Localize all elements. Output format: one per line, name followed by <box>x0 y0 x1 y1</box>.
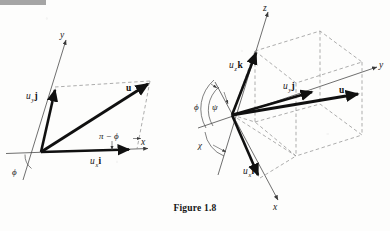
right-box-bottom-face <box>255 104 362 156</box>
right-z-component-vector <box>232 53 256 115</box>
left-y-component-unit-vector: j <box>34 91 38 101</box>
figure-canvas: x y u u y j u x i π − ϕ ϕ <box>0 0 390 231</box>
right-resultant-label: u <box>339 85 345 95</box>
left-resultant-label: u <box>126 83 132 93</box>
right-psi-label: ψ <box>212 102 218 112</box>
right-z-component-unit-vector: k <box>238 60 244 70</box>
left-x-component-unit-vector: i <box>99 156 102 166</box>
left-x-component-label: u x i <box>90 156 102 168</box>
left-x-component-vector <box>41 150 129 153</box>
left-y-component-label: u y j <box>26 91 38 103</box>
right-chi-label: χ <box>197 140 203 150</box>
left-y-component-base: u <box>26 91 31 101</box>
right-x-axis <box>215 82 278 200</box>
right-z-component-label: u z k <box>229 60 244 72</box>
left-phi-label: ϕ <box>12 167 17 177</box>
left-y-axis <box>23 40 66 180</box>
right-phi-label: ϕ <box>194 102 199 112</box>
figure-caption: Figure 1.8 <box>0 203 390 213</box>
left-x-component-base: u <box>90 156 95 166</box>
right-box-top-face <box>255 31 362 83</box>
right-z-component-base: u <box>229 60 234 70</box>
left-dashed-top <box>55 81 150 87</box>
right-y-component-label: u y j <box>283 81 295 93</box>
left-resultant-vector <box>41 84 148 152</box>
figure-page: x y u u y j u x i π − ϕ ϕ <box>0 0 390 231</box>
right-y-component-unit-vector: j <box>291 81 295 91</box>
right-z-axis <box>218 12 268 175</box>
right-x-component-label: u x i <box>243 166 255 178</box>
left-pi-minus-phi-label: π − ϕ <box>99 131 119 141</box>
right-y-axis <box>198 67 377 128</box>
right-panel: z y x u z k u y j u x i u <box>194 3 384 212</box>
right-box-origin-edge-d <box>260 156 296 178</box>
left-y-axis-label: y <box>59 30 65 40</box>
right-x-component-base: u <box>243 166 248 176</box>
left-x-axis-label: x <box>140 137 146 147</box>
right-y-component-base: u <box>283 81 288 91</box>
right-z-axis-label: z <box>262 3 267 13</box>
right-y-axis-label: y <box>378 60 384 70</box>
right-x-component-unit-vector: i <box>252 166 255 176</box>
left-panel: x y u u y j u x i π − ϕ ϕ <box>6 30 150 180</box>
right-chi-arc <box>205 132 224 156</box>
